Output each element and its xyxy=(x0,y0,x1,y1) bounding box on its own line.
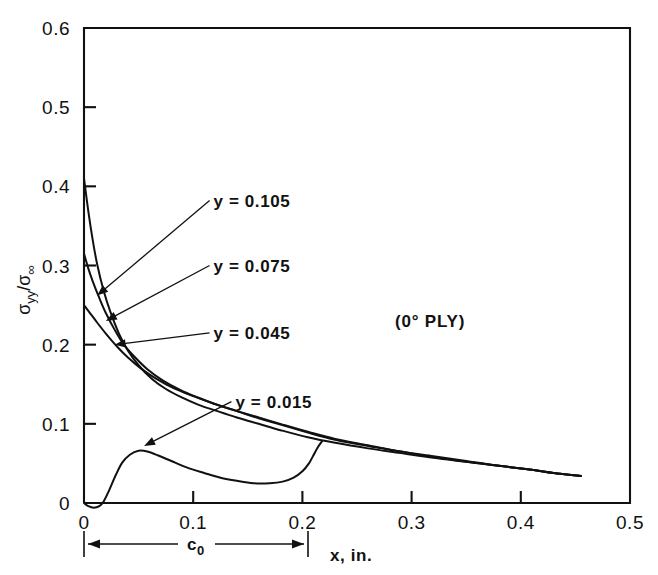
x-axis-tick-labels: 00.10.20.30.40.5 xyxy=(78,512,644,533)
stress-distribution-chart: 00.10.20.30.40.50.6 00.10.20.30.40.5 y =… xyxy=(0,0,658,575)
y-tick-label: 0.1 xyxy=(42,414,70,435)
curve-label: y = 0.105 xyxy=(214,192,291,211)
y-tick-label: 0.3 xyxy=(42,256,70,277)
x-tick-label: 0.1 xyxy=(179,512,207,533)
y-tick-label: 0.2 xyxy=(42,335,70,356)
y-axis-tick-labels: 00.10.20.30.40.50.6 xyxy=(42,18,70,514)
bracket-arrow-right xyxy=(292,540,304,549)
bracket-arrow-left xyxy=(88,540,100,549)
y-axis-title: σyy/σ∞ xyxy=(14,265,38,315)
plot-frame xyxy=(84,28,630,503)
data-curve xyxy=(84,178,581,476)
curve-leader-line xyxy=(104,201,210,290)
x-tick-label: 0 xyxy=(78,512,89,533)
y-tick-label: 0.6 xyxy=(42,18,70,39)
x-axis-ticks xyxy=(193,491,521,503)
data-curve xyxy=(84,441,322,508)
y-axis-numerator-symbol: σ xyxy=(14,304,34,315)
y-axis-denominator-subscript: ∞ xyxy=(23,265,38,274)
x-tick-label: 0.5 xyxy=(616,512,644,533)
y-axis-numerator-subscript: yy xyxy=(23,290,38,304)
y-tick-label: 0.5 xyxy=(42,97,70,118)
curve-leader-line xyxy=(152,402,231,442)
curve-leader-line xyxy=(114,266,210,317)
y-tick-label: 0.4 xyxy=(42,176,70,197)
curve-label: y = 0.075 xyxy=(214,257,291,276)
c0-span-bracket: c0 xyxy=(84,531,308,558)
curve-leader-line xyxy=(124,333,210,344)
svg-text:σyy/σ∞: σyy/σ∞ xyxy=(14,265,38,315)
c0-label-subscript: 0 xyxy=(197,543,205,558)
c0-label-main: c xyxy=(187,535,197,554)
x-axis-title: x, in. xyxy=(330,546,372,565)
x-tick-label: 0.4 xyxy=(507,512,535,533)
curve-label: y = 0.045 xyxy=(214,324,291,343)
curve-leader-arrowhead xyxy=(144,437,156,446)
y-axis-ticks xyxy=(84,107,96,424)
x-tick-label: 0.2 xyxy=(288,512,316,533)
y-axis-denominator-symbol: σ xyxy=(14,275,34,286)
curve-labels: y = 0.105y = 0.075y = 0.045y = 0.015 xyxy=(214,192,313,412)
x-tick-label: 0.3 xyxy=(398,512,426,533)
y-tick-label: 0 xyxy=(59,493,70,514)
ply-annotation: (0° PLY) xyxy=(395,312,465,331)
figure-root: 00.10.20.30.40.50.6 00.10.20.30.40.5 y =… xyxy=(0,0,658,575)
c0-label: c0 xyxy=(187,535,205,558)
data-curves xyxy=(84,178,581,507)
data-curve xyxy=(84,305,581,476)
curve-label: y = 0.015 xyxy=(235,393,312,412)
